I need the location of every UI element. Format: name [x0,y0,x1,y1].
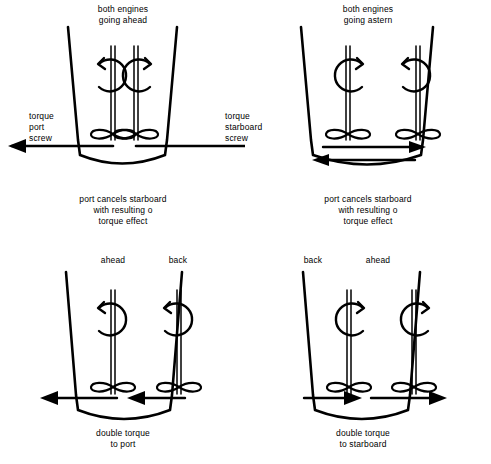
panel-top-left: both engines going ahead torque port scr… [0,0,245,232]
propeller-torque-diagram: { "figure": { "title": "twin-screw prope… [0,0,491,464]
port-torque-arrow-left [8,139,113,153]
port-propeller [91,383,135,392]
caption-line-2: with resulting o [338,205,397,215]
panel-caption-bottom-left: double torque to port [96,428,150,450]
panel-bottom-left: ahead back [0,232,245,464]
caption-line-2: to starboard [339,439,386,449]
starboard-propeller [392,383,436,392]
panel-bottom-right: back ahead [245,232,490,464]
port-rotation-arrow-cw [335,58,363,91]
caption-line-3: torque effect [98,216,147,226]
caption-line-1: double torque [96,428,150,438]
hull-outline [68,27,177,164]
panel-caption-bottom-right: double torque to starboard [336,428,390,450]
port-rotation-arrow-ccw [98,302,126,335]
caption-line-2: to port [110,439,135,449]
port-propeller [326,130,370,139]
starboard-propeller [157,383,201,392]
panel-top-right: both engines going astern [245,0,490,232]
caption-line-1: double torque [336,428,390,438]
caption-line-1: port cancels starboard [324,194,411,204]
caption-line-1: port cancels starboard [79,194,166,204]
port-rotation-arrow-cw [336,302,364,335]
caption-line-2: with resulting o [93,205,152,215]
starboard-propeller [396,130,440,139]
panel-caption-top-left: port cancels starboard with resulting o … [79,194,166,227]
caption-line-3: torque effect [343,216,392,226]
panel-caption-top-right: port cancels starboard with resulting o … [324,194,411,227]
port-torque-arrow-left [40,391,117,405]
port-propeller [327,383,371,392]
upper-torque-arrow-right [323,141,426,153]
